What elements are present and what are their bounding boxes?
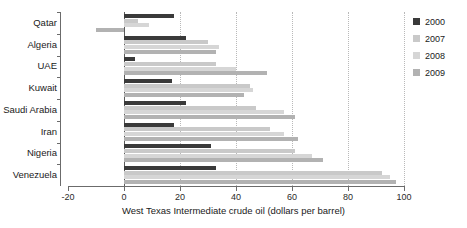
gridline [404,12,406,186]
x-tick-label: 20 [175,192,185,202]
legend-swatch [413,52,420,59]
legend-item: 2009 [413,64,445,81]
x-tick [348,186,349,191]
x-tick-label: 40 [231,192,241,202]
legend-label: 2008 [425,51,445,61]
category-group [0,77,336,99]
category-group [0,12,336,34]
legend-label: 2000 [425,17,445,27]
legend-item: 2008 [413,47,445,64]
category-group [0,56,336,78]
x-tick [124,186,125,191]
category-group [0,143,336,165]
x-tick-label: 80 [343,192,353,202]
x-tick [180,186,181,191]
x-tick [236,186,237,191]
category-group [0,164,336,186]
category-group [0,99,336,121]
x-tick-label: 0 [121,192,126,202]
x-tick-label: -20 [61,192,74,202]
x-axis-label: West Texas Intermediate crude oil (dolla… [0,205,467,216]
legend: 2000200720082009 [413,13,445,81]
bar-chart: -20020406080100 West Texas Intermediate … [0,0,467,228]
x-tick-label: 100 [396,192,411,202]
x-tick [292,186,293,191]
x-tick [68,186,69,191]
legend-swatch [413,69,420,76]
legend-label: 2007 [425,34,445,44]
legend-item: 2007 [413,30,445,47]
legend-item: 2000 [413,13,445,30]
category-group [0,34,336,56]
gridline [348,12,350,186]
x-tick [404,186,405,191]
x-tick-label: 60 [287,192,297,202]
legend-swatch [413,35,420,42]
legend-label: 2009 [425,68,445,78]
category-group [0,121,336,143]
legend-swatch [413,18,420,25]
